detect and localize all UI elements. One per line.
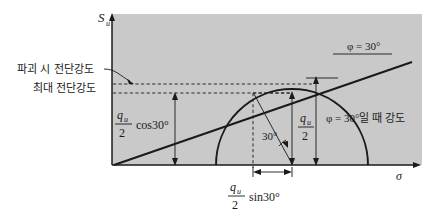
failure-shear-strength-label: 파괴 시 전단강도 — [17, 63, 94, 76]
qu2-sin30-numerator-sub: u — [237, 187, 241, 196]
phi-angle-label: φ = 30° — [347, 40, 380, 52]
qu2-sin30-numerator: q — [230, 180, 236, 194]
y-axis-label-main: S — [98, 10, 105, 25]
qu2-sin30-suffix: sin30° — [249, 190, 280, 204]
qu2-cos30-denominator: 2 — [119, 126, 125, 140]
y-axis-label: S u — [98, 10, 110, 28]
thirty-degree-label: 30° — [262, 130, 277, 142]
qu2-sin30-arrow-left-icon — [253, 169, 261, 175]
qu2-denominator: 2 — [302, 129, 308, 143]
qu2-sin30-denominator: 2 — [232, 198, 238, 212]
qu2-cos30-numerator-sub: u — [124, 115, 128, 124]
y-axis-label-sub: u — [106, 19, 110, 28]
strength-at-phi-label: φ = 30°일 때 강도 — [326, 111, 405, 124]
qu2-cos30-numerator: q — [117, 108, 123, 122]
dimension-qu2-sin30: q u 2 sin30° — [228, 167, 292, 212]
mohr-circle-figure: S u σ φ = 30° 파괴 시 전단강도 최대 전단강도 — [0, 0, 433, 218]
max-shear-strength-label: 최대 전단강도 — [33, 82, 97, 95]
qu2-cos30-suffix: cos30° — [136, 118, 169, 132]
qu2-numerator: q — [300, 111, 306, 125]
plot-background — [112, 14, 422, 165]
strength-at-phi-group: φ = 30°일 때 강도 — [326, 111, 405, 124]
x-axis-label: σ — [396, 169, 403, 183]
qu2-numerator-sub: u — [307, 118, 311, 127]
qu2-sin30-arrow-right-icon — [284, 169, 292, 175]
